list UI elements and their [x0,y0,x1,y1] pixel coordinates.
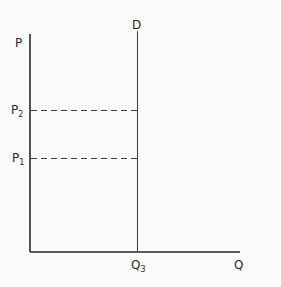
q3-tick-label: Q3 [131,259,146,274]
p2-label-sub: 2 [18,110,23,119]
chart-canvas [0,0,281,287]
y-axis-label: P [15,37,22,49]
p2-tick-label: P2 [11,104,23,119]
demand-curve-label: D [132,19,141,31]
p1-tick-label: P1 [12,152,24,167]
q3-label-sub: 3 [140,265,145,274]
p1-label-sub: 1 [19,158,24,167]
x-axis-label: Q [234,259,243,271]
